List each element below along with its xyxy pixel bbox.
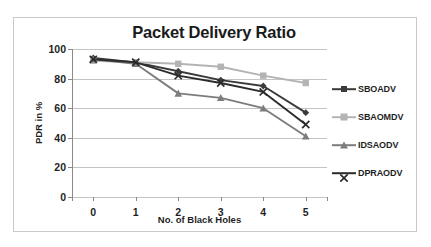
chart-title: Packet Delivery Ratio	[104, 23, 324, 42]
x-tick-label-4: 4	[260, 206, 266, 218]
y-axis-title: PDR in %	[33, 102, 44, 144]
legend-item-dpraodv[interactable]: DPRAODV	[332, 159, 428, 187]
x-tick-label-5: 5	[303, 206, 309, 218]
legend-marker-triangle-icon	[332, 139, 356, 151]
legend-item-sbaomdv[interactable]: SBAOMDV	[332, 103, 428, 131]
x-tick-label-3: 3	[218, 206, 224, 218]
datapoint-sbaomdv-x4	[260, 72, 266, 78]
gridline-0	[72, 197, 327, 198]
legend-marker-diamond-icon	[332, 83, 356, 95]
x-tick-label-0: 0	[90, 206, 96, 218]
legend-marker-square-icon	[332, 111, 356, 123]
chart-legend: SBOADVSBAOMDVIDSAODVDPRAODV	[332, 75, 428, 187]
series-line-idsaodv	[93, 59, 306, 136]
datapoint-sbaomdv-x3	[218, 64, 224, 70]
x-tick-5	[306, 197, 307, 201]
x-tick-4	[263, 197, 264, 201]
plot-area: 020406080100 012345	[72, 49, 327, 197]
datapoint-dpraodv-x5	[302, 121, 309, 128]
y-tick-label-20: 20	[54, 161, 66, 173]
x-axis-title: No. of Black Holes	[72, 214, 327, 225]
y-tick-label-0: 0	[60, 191, 66, 203]
x-axis-end-tick	[327, 197, 328, 201]
x-tick-3	[221, 197, 222, 201]
x-tick-label-1: 1	[133, 206, 139, 218]
x-tick-1	[136, 197, 137, 201]
y-tick-label-60: 60	[54, 102, 66, 114]
y-tick-label-100: 100	[48, 43, 66, 55]
series-idsaodv	[89, 56, 309, 140]
datapoint-sbaomdv-x2	[175, 61, 181, 67]
data-series-layer	[72, 49, 327, 197]
chart-frame: Packet Delivery Ratio PDR in % No. of Bl…	[13, 17, 417, 232]
x-tick-0	[93, 197, 94, 201]
legend-marker-cross-icon	[332, 167, 356, 179]
y-tick-label-40: 40	[54, 132, 66, 144]
legend-item-idsaodv[interactable]: IDSAODV	[332, 131, 428, 159]
datapoint-sbaomdv-x5	[303, 80, 309, 86]
legend-label-sbaomdv: SBAOMDV	[358, 112, 403, 122]
legend-item-sboadv[interactable]: SBOADV	[332, 75, 428, 103]
legend-label-idsaodv: IDSAODV	[358, 140, 398, 150]
y-tick-label-80: 80	[54, 73, 66, 85]
scan-artifact-band	[0, 0, 431, 10]
chart-page: Packet Delivery Ratio PDR in % No. of Bl…	[0, 0, 431, 247]
legend-label-dpraodv: DPRAODV	[358, 168, 402, 178]
series-sboadv	[90, 54, 309, 116]
x-tick-2	[178, 197, 179, 201]
x-tick-label-2: 2	[175, 206, 181, 218]
x-axis-start-tick	[72, 197, 73, 201]
legend-label-sboadv: SBOADV	[358, 84, 396, 94]
